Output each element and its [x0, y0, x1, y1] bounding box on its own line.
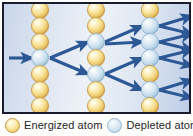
photon-arrow: [159, 42, 189, 50]
energized-atom: [32, 98, 49, 113]
energized-atom: [88, 4, 105, 19]
depleted-atom-icon: [107, 118, 122, 133]
energized-atom: [88, 50, 105, 67]
energized-atom: [32, 4, 49, 19]
photon-arrow: [105, 58, 142, 74]
photon-arrow: [159, 26, 189, 34]
depleted-atom: [142, 18, 159, 35]
legend-item-depleted: Depleted atom: [107, 118, 193, 133]
photon-arrow: [159, 34, 189, 42]
energized-atom: [88, 98, 105, 113]
depleted-atom: [88, 34, 105, 51]
depleted-atom: [32, 50, 49, 67]
photon-arrow: [50, 42, 88, 58]
energized-atom-icon: [5, 118, 20, 133]
depleted-atom: [142, 82, 159, 99]
energized-atom: [32, 34, 49, 51]
energized-atom: [32, 66, 49, 83]
depleted-atom: [142, 34, 159, 51]
energized-atom: [142, 98, 159, 113]
photon-arrow: [50, 58, 88, 74]
figure-root: Energized atom Depleted atom: [0, 0, 193, 136]
energized-atom: [88, 82, 105, 99]
legend-item-energized: Energized atom: [5, 118, 102, 133]
energized-atom: [88, 18, 105, 35]
legend: Energized atom Depleted atom: [0, 114, 193, 136]
energized-atom: [142, 4, 159, 19]
photon-arrow: [105, 74, 142, 90]
photon-arrow: [159, 80, 189, 90]
photon-arrow: [105, 26, 142, 42]
energized-atom: [32, 82, 49, 99]
cascade-diagram: [4, 4, 189, 112]
photon-arrow: [105, 42, 142, 44]
depleted-atom: [142, 50, 159, 67]
energized-atom: [142, 66, 159, 83]
legend-label-energized: Energized atom: [24, 119, 102, 131]
photon-arrow: [159, 90, 189, 98]
photon-arrow: [159, 50, 189, 58]
depleted-atom: [88, 66, 105, 83]
legend-label-depleted: Depleted atom: [126, 119, 193, 131]
energized-atom: [32, 18, 49, 35]
photon-arrow: [159, 16, 189, 26]
photon-arrow: [159, 58, 189, 66]
diagram-frame: [2, 2, 191, 114]
